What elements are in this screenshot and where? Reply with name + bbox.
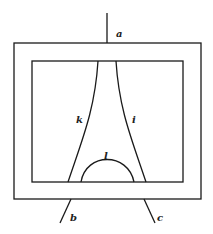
inner-frame: [32, 61, 183, 182]
arc-l: [81, 160, 134, 183]
diagram-canvas: a k i l b c: [0, 0, 213, 234]
label-k: k: [76, 114, 83, 125]
label-l: l: [104, 150, 108, 161]
curve-i: [116, 61, 146, 182]
label-i: i: [132, 114, 136, 125]
label-c: c: [157, 212, 163, 223]
curve-k: [68, 61, 98, 182]
outer-frame: [14, 43, 201, 199]
label-b: b: [70, 212, 77, 223]
label-a: a: [116, 28, 122, 39]
wire-c: [144, 199, 155, 223]
